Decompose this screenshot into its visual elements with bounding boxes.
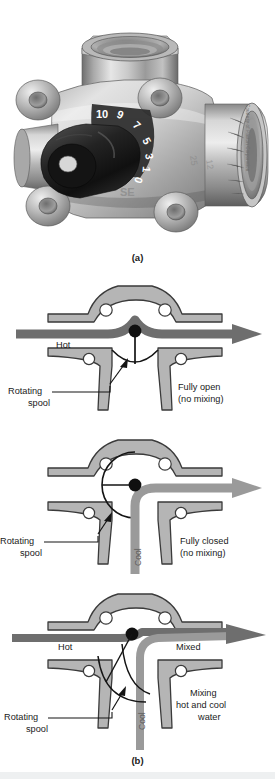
figure-container: 10 9 7 5 3 1 0 SE 25 <box>0 0 275 779</box>
caption-a: (a) <box>0 252 275 263</box>
label-spool: spool <box>26 724 48 735</box>
diagram-mixing: Hot Mixed Rotating spool Cool Mixing hot… <box>0 578 275 750</box>
label-state-line2: (no mixing) <box>180 548 225 559</box>
label-spool: spool <box>20 548 42 559</box>
label-rotating: Rotating <box>8 386 42 397</box>
label-hot: Hot <box>56 340 70 351</box>
label-rotating: Rotating <box>4 712 38 723</box>
body-embossed-text: SE <box>120 186 135 198</box>
bolt-hole <box>159 304 171 316</box>
diagram-fully-closed: Rotating spool Cool Fully closed (no mix… <box>0 424 275 574</box>
pivot-point <box>129 479 142 492</box>
valve-photograph: 10 9 7 5 3 1 0 SE 25 <box>0 0 275 258</box>
label-mixed: Mixed <box>176 642 201 653</box>
pivot-point <box>129 325 142 338</box>
bolt-hole <box>175 353 186 364</box>
svg-text:12: 12 <box>204 159 216 171</box>
label-cool: Cool <box>137 712 147 730</box>
bolt-hole <box>159 458 171 470</box>
lower-housing-left <box>48 502 112 564</box>
label-state-line1: Fully open <box>178 382 220 393</box>
label-rotating: Rotating <box>0 536 34 547</box>
bolt-hole <box>100 304 112 316</box>
label-state-line2: hot and cool <box>176 700 226 711</box>
spool-pointer-head <box>118 686 126 696</box>
caption-b: (b) <box>0 755 275 766</box>
label-cool: Cool <box>133 548 143 566</box>
mixed-outlet-arrowhead <box>226 624 266 644</box>
cool-flow-arrow <box>140 636 232 750</box>
cool-flow-arrow <box>135 478 262 574</box>
label-state-line3: water <box>198 712 220 723</box>
photo-credit: Courtesy of Paxton Corporation <box>245 104 250 196</box>
lower-housing-left <box>48 348 112 410</box>
label-spool: spool <box>28 398 50 409</box>
valve-housing-outline <box>48 594 222 630</box>
svg-text:1: 1 <box>140 166 153 173</box>
diagram-fully-open: Hot Rotating spool Fully open (no mixing… <box>0 270 275 420</box>
bolt-hole <box>175 665 186 676</box>
label-state-line1: Fully closed <box>180 536 229 547</box>
bolt-hole <box>83 507 94 518</box>
bolt-hole <box>83 665 94 676</box>
svg-text:10: 10 <box>96 108 108 120</box>
valve-photo-svg: 10 9 7 5 3 1 0 SE 25 <box>0 0 275 258</box>
label-state-line1: Mixing <box>190 688 217 699</box>
bolt-hole <box>83 353 94 364</box>
label-hot: Hot <box>58 642 72 653</box>
bolt-hole <box>159 612 171 624</box>
right-port <box>205 103 268 207</box>
bottom-band <box>0 772 275 779</box>
valve-housing-outline <box>48 440 222 476</box>
svg-text:25: 25 <box>188 155 200 167</box>
bolt-hole <box>100 612 112 624</box>
bolt-hole <box>175 507 186 518</box>
spool-leader <box>44 536 98 542</box>
label-state-line2: (no mixing) <box>178 394 223 405</box>
